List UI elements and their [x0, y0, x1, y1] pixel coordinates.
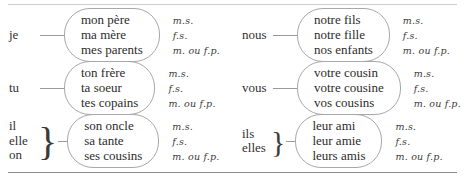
pronoun-label: ils — [242, 127, 273, 142]
noun-phrase: ta soeur — [81, 80, 138, 95]
noun-phrase-box: notre fils notre fille nos enfants — [297, 8, 390, 62]
connector-line — [286, 141, 295, 142]
gender-number-annotation: m.s. — [172, 119, 219, 134]
gender-number-annotation: f.s. — [168, 81, 215, 96]
gender-number-annotation: m. ou f.p. — [395, 149, 442, 164]
gender-number-annotation: m. ou f.p. — [172, 149, 219, 164]
gender-number-annotation: f.s. — [403, 28, 450, 43]
noun-phrase: ton frère — [81, 65, 138, 80]
pronoun-label-list: nous — [233, 28, 273, 43]
noun-phrase: nos enfants — [314, 42, 373, 57]
pronoun-group-il-elle-on: il elle on } son oncle sa tante ses cous… — [0, 115, 232, 167]
noun-phrase: mes parents — [81, 42, 143, 57]
noun-phrase: sa tante — [84, 133, 142, 148]
pronoun-label: tu — [9, 81, 40, 96]
gender-number-annotation: m.s. — [173, 13, 220, 28]
noun-phrase: votre cousin — [314, 65, 384, 80]
gender-number-annotations: m.s. f.s. m. ou f.p. — [403, 12, 450, 58]
pronoun-label: nous — [242, 28, 273, 43]
pronoun-label: il — [9, 119, 40, 134]
gender-number-annotation: m.s. — [403, 13, 450, 28]
pronoun-label: elle — [9, 134, 40, 149]
pronoun-group-vous: vous } votre cousin votre cousine vos co… — [233, 62, 465, 114]
noun-phrase: votre cousine — [314, 80, 384, 95]
noun-phrase: leurs amis — [312, 148, 365, 163]
pronoun-group-ils-elles: ils elles } leur ami leur amie leurs ami… — [233, 115, 465, 167]
connector-line — [273, 35, 297, 36]
gender-number-annotation: f.s. — [173, 28, 220, 43]
noun-phrase-box: son oncle sa tante ses cousins — [67, 114, 159, 168]
gender-number-annotations: m.s. f.s. m. ou f.p. — [168, 65, 215, 111]
gender-number-annotation: f.s. — [414, 81, 461, 96]
connector-line — [40, 88, 64, 89]
noun-phrase-box: mon père ma mère mes parents — [64, 8, 160, 62]
pronoun-group-je: je } mon père ma mère mes parents m.s. f… — [0, 9, 232, 61]
gender-number-annotations: m.s. f.s. m. ou f.p. — [414, 65, 461, 111]
connector-line — [58, 141, 67, 142]
noun-phrase: leur ami — [312, 118, 365, 133]
gender-number-annotation: m. ou f.p. — [414, 96, 461, 111]
gender-number-annotations: m.s. f.s. m. ou f.p. — [173, 12, 220, 58]
noun-phrase: ses cousins — [84, 148, 142, 163]
gender-number-annotations: m.s. f.s. m. ou f.p. — [172, 118, 219, 164]
gender-number-annotation: m.s. — [168, 66, 215, 81]
pronoun-label-list: tu — [0, 81, 40, 96]
noun-phrase: mon père — [81, 12, 143, 27]
gender-number-annotation: m.s. — [395, 119, 442, 134]
pronoun-label-list: il elle on — [0, 119, 40, 163]
pronoun-label-list: ils elles — [233, 127, 273, 156]
noun-phrase: son oncle — [84, 118, 142, 133]
gender-number-annotation: m. ou f.p. — [403, 43, 450, 58]
pronoun-label: elles — [242, 141, 273, 156]
column-left: je } mon père ma mère mes parents m.s. f… — [0, 0, 232, 185]
noun-phrase: tes copains — [81, 95, 138, 110]
pronoun-group-tu: tu } ton frère ta soeur tes copains m.s.… — [0, 62, 232, 114]
gender-number-annotation: m. ou f.p. — [168, 96, 215, 111]
noun-phrase: vos cousins — [314, 95, 384, 110]
noun-phrase-box: ton frère ta soeur tes copains — [64, 61, 155, 115]
possessive-adjectives-figure: je } mon père ma mère mes parents m.s. f… — [0, 0, 465, 185]
noun-phrase-box: leur ami leur amie leurs amis — [295, 114, 382, 168]
pronoun-label: vous — [242, 81, 273, 96]
noun-phrase-box: votre cousin votre cousine vos cousins — [297, 61, 401, 115]
noun-phrase: ma mère — [81, 27, 143, 42]
pronoun-label: je — [9, 28, 40, 43]
column-right: nous } notre fils notre fille nos enfant… — [233, 0, 465, 185]
pronoun-label-list: vous — [233, 81, 273, 96]
gender-number-annotation: m.s. — [414, 66, 461, 81]
gender-number-annotation: m. ou f.p. — [173, 43, 220, 58]
noun-phrase: leur amie — [312, 133, 365, 148]
pronoun-label-list: je — [0, 28, 40, 43]
noun-phrase: notre fils — [314, 12, 373, 27]
pronoun-label: on — [9, 148, 40, 163]
connector-line — [40, 35, 64, 36]
noun-phrase: notre fille — [314, 27, 373, 42]
gender-number-annotation: f.s. — [395, 134, 442, 149]
gender-number-annotation: f.s. — [172, 134, 219, 149]
gender-number-annotations: m.s. f.s. m. ou f.p. — [395, 118, 442, 164]
connector-line — [273, 88, 297, 89]
pronoun-group-nous: nous } notre fils notre fille nos enfant… — [233, 9, 465, 61]
